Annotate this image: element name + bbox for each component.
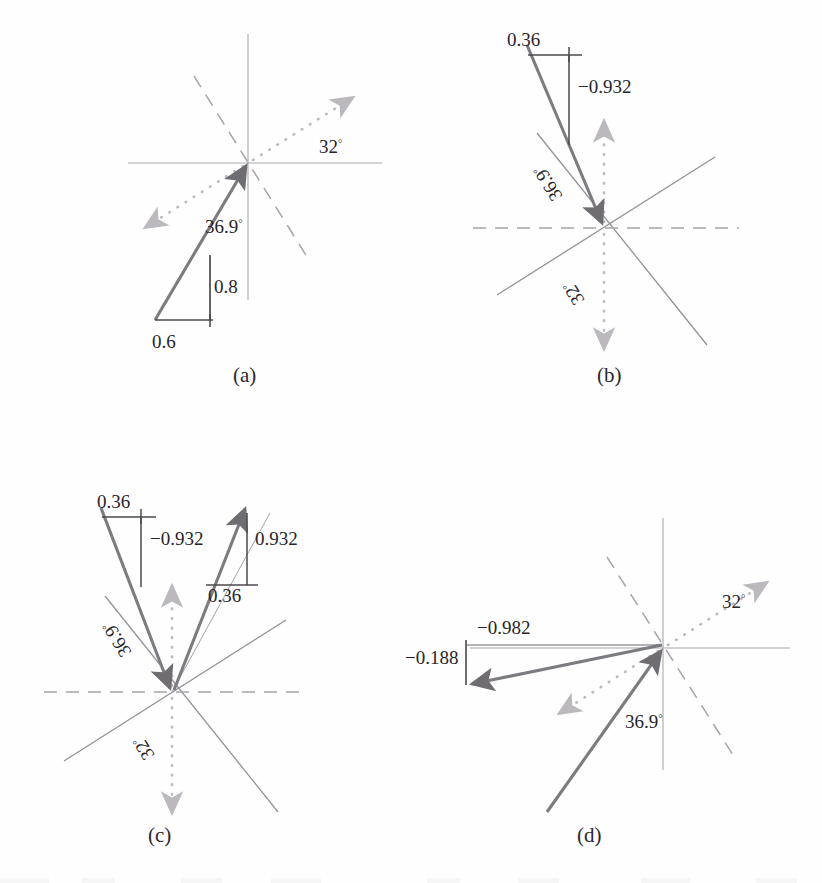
panel-c-right-x-component-label: 0.36 [208, 585, 241, 606]
panel-b: 0.36 −0.932 36.9° 32° (b) [473, 29, 739, 387]
panel-c-rotation-angle-label: 32° [128, 733, 158, 764]
panel-d-rotated-x-axis-negative [560, 651, 658, 713]
panel-c-rotated-y-axis [105, 596, 278, 812]
panel-b-rotated-y-axis [537, 133, 707, 345]
panel-a-rotation-angle-label: 32° [319, 136, 342, 157]
panel-c: 0.36 −0.932 0.932 0.36 36.9° 32° (c) [44, 491, 308, 847]
panel-b-x-component-label: 0.36 [507, 29, 540, 50]
panel-b-rotated-x-axis [497, 157, 715, 295]
figure-root: 32° 36.9° 0.8 0.6 (a) [0, 0, 822, 883]
panel-a-x-component-label: 0.6 [152, 331, 176, 352]
panel-c-caption: (c) [148, 823, 171, 847]
panel-b-caption: (b) [597, 363, 622, 387]
panel-a: 32° 36.9° 0.8 0.6 (a) [128, 34, 382, 387]
panel-d-vector-angle-label: 36.9° [625, 711, 663, 732]
panel-c-rotated-x-axis [64, 620, 286, 761]
panel-d: −0.982 −0.188 32° 36.9° (d) [405, 518, 790, 847]
panel-b-vector-angle-label: 36.9° [529, 162, 567, 205]
panel-b-y-component-label: −0.932 [578, 76, 631, 97]
panel-c-left-y-component-label: −0.932 [150, 528, 203, 549]
panel-c-right-y-component-label: 0.932 [255, 528, 298, 549]
panel-a-y-component-label: 0.8 [214, 276, 238, 297]
panel-b-rotation-angle-label: 32° [558, 278, 588, 309]
panel-d-y-component-label: −0.188 [405, 647, 458, 668]
panel-c-left-x-component-label: 0.36 [97, 491, 130, 512]
panel-d-x-component-label: −0.982 [477, 617, 530, 638]
panel-d-caption: (d) [577, 823, 602, 847]
panel-d-vector-w [472, 645, 662, 684]
panel-c-vector-angle-label: 36.9° [98, 618, 136, 661]
panel-d-rotated-x-axis [668, 583, 766, 645]
panel-a-vector-angle-label: 36.9° [205, 216, 243, 237]
panel-a-caption: (a) [233, 363, 256, 387]
vector-diagram-figure: 32° 36.9° 0.8 0.6 (a) [0, 0, 822, 883]
panel-d-rotation-angle-label: 32° [722, 591, 745, 612]
